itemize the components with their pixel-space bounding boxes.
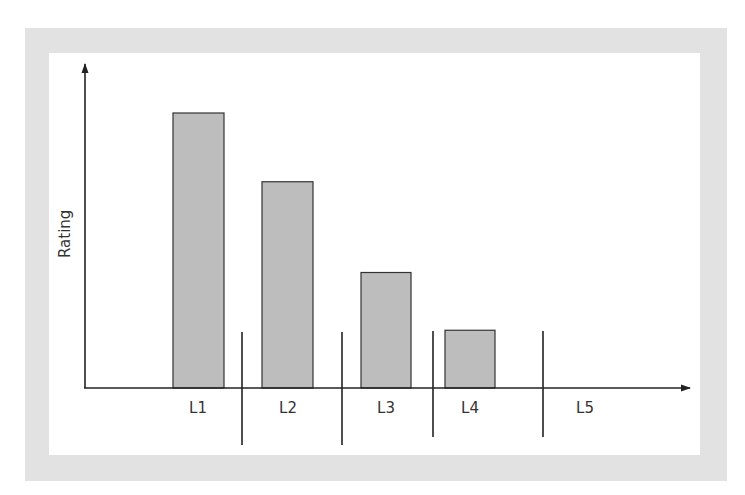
x-label-l4: L4 (461, 399, 479, 417)
x-label-l2: L2 (279, 399, 297, 417)
bar-l4 (445, 330, 495, 388)
bar-l2 (262, 182, 313, 388)
bar-chart: Rating L1 L2 L3 L4 L5 (0, 0, 745, 495)
bars (173, 113, 495, 388)
x-label-l1: L1 (189, 399, 207, 417)
x-label-l3: L3 (377, 399, 395, 417)
x-label-l5: L5 (576, 399, 594, 417)
bar-l1 (173, 113, 224, 388)
bar-l3 (361, 273, 411, 389)
y-axis-label: Rating (56, 210, 74, 258)
